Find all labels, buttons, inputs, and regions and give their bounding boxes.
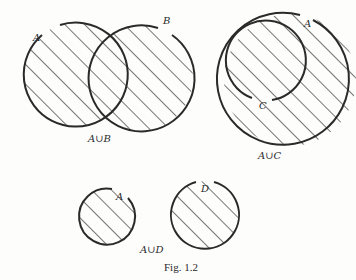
venn-diagrams-svg xyxy=(0,0,356,280)
label-set-a-small: A xyxy=(116,192,123,202)
label-set-d: D xyxy=(201,184,209,194)
label-a-union-b: A∪B xyxy=(88,134,111,144)
label-set-c: C xyxy=(259,101,267,111)
label-set-a: A xyxy=(33,33,40,43)
figure-caption: Fig. 1.2 xyxy=(164,262,198,273)
label-a-union-d: A∪D xyxy=(140,245,164,255)
venn-figure: A B A∪B A C A∪C A D A∪D Fig. 1.2 xyxy=(0,0,356,280)
diagram-a-union-c xyxy=(217,13,356,146)
label-set-a-outer: A xyxy=(304,19,311,29)
diagram-a-union-d xyxy=(79,181,239,249)
label-a-union-c: A∪C xyxy=(258,151,281,161)
label-set-b: B xyxy=(163,16,170,26)
hatch-fill-a-union-c xyxy=(224,14,356,146)
diagram-a-union-b xyxy=(20,20,200,135)
